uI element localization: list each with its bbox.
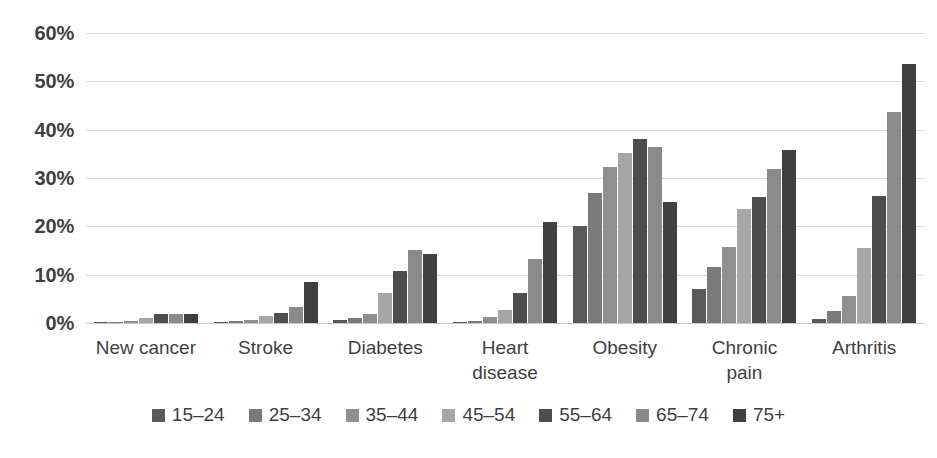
bar[interactable] [857, 248, 871, 323]
y-tick-label: 20% [35, 215, 74, 238]
plot-area [86, 33, 924, 323]
bar[interactable] [663, 202, 677, 323]
legend-label: 65–74 [656, 404, 709, 426]
legend-label: 75+ [753, 404, 785, 426]
bar[interactable] [872, 196, 886, 323]
bar[interactable] [214, 322, 228, 323]
legend-swatch-icon [539, 409, 552, 422]
bar[interactable] [902, 64, 916, 323]
bar[interactable] [184, 314, 198, 323]
x-axis-category-label: Arthritis [804, 329, 924, 391]
bar[interactable] [528, 259, 542, 323]
bar[interactable] [94, 322, 108, 323]
bar[interactable] [513, 293, 527, 323]
bar[interactable] [289, 307, 303, 323]
bar-group [325, 33, 445, 323]
bar[interactable] [752, 197, 766, 323]
bar[interactable] [304, 282, 318, 323]
y-axis: 0%10%20%30%40%50%60% [0, 33, 74, 323]
grouped-bar-chart: 0%10%20%30%40%50%60% New cancerStrokeDia… [0, 0, 937, 458]
bar[interactable] [244, 320, 258, 323]
bar[interactable] [333, 320, 347, 323]
bar[interactable] [109, 322, 123, 323]
bar[interactable] [154, 314, 168, 323]
bar[interactable] [812, 319, 826, 323]
x-axis: New cancerStrokeDiabetesHeart diseaseObe… [86, 329, 924, 391]
bar[interactable] [498, 310, 512, 323]
bar[interactable] [363, 314, 377, 323]
legend-label: 15–24 [172, 404, 225, 426]
bar[interactable] [378, 293, 392, 323]
y-tick-label: 10% [35, 263, 74, 286]
bar-group [804, 33, 924, 323]
legend-label: 35–44 [366, 404, 419, 426]
bar[interactable] [348, 318, 362, 323]
legend-swatch-icon [636, 409, 649, 422]
x-axis-category-label: New cancer [86, 329, 206, 391]
bar[interactable] [274, 313, 288, 323]
bar[interactable] [543, 222, 557, 323]
bar[interactable] [408, 250, 422, 323]
bar[interactable] [573, 226, 587, 323]
bar[interactable] [648, 147, 662, 323]
bar[interactable] [767, 169, 781, 323]
bar[interactable] [692, 289, 706, 323]
legend-item[interactable]: 65–74 [636, 404, 709, 426]
bar[interactable] [483, 317, 497, 323]
legend-item[interactable]: 25–34 [249, 404, 322, 426]
chart-legend: 15–2425–3435–4445–5455–6465–7475+ [0, 404, 937, 426]
bar-group [565, 33, 685, 323]
bar[interactable] [588, 193, 602, 323]
bar[interactable] [782, 150, 796, 323]
x-axis-category-label: Stroke [206, 329, 326, 391]
bar[interactable] [603, 167, 617, 323]
legend-swatch-icon [733, 409, 746, 422]
bar-group [86, 33, 206, 323]
legend-item[interactable]: 45–54 [442, 404, 515, 426]
bar[interactable] [393, 271, 407, 323]
bar[interactable] [737, 209, 751, 323]
axis-baseline [86, 323, 924, 324]
x-axis-category-label: Chronic pain [685, 329, 805, 391]
bar[interactable] [722, 247, 736, 323]
y-tick-label: 30% [35, 167, 74, 190]
bar[interactable] [633, 139, 647, 323]
bar[interactable] [124, 321, 138, 323]
legend-label: 45–54 [462, 404, 515, 426]
bar[interactable] [453, 322, 467, 323]
bar-group [206, 33, 326, 323]
bar[interactable] [707, 267, 721, 323]
y-tick-label: 50% [35, 70, 74, 93]
x-axis-category-label: Heart disease [445, 329, 565, 391]
legend-item[interactable]: 75+ [733, 404, 785, 426]
bar[interactable] [229, 321, 243, 323]
legend-swatch-icon [249, 409, 262, 422]
x-axis-category-label: Obesity [565, 329, 685, 391]
bar[interactable] [842, 296, 856, 323]
legend-item[interactable]: 55–64 [539, 404, 612, 426]
legend-swatch-icon [346, 409, 359, 422]
y-tick-label: 0% [45, 312, 74, 335]
legend-swatch-icon [442, 409, 455, 422]
bar[interactable] [887, 112, 901, 323]
legend-label: 55–64 [559, 404, 612, 426]
bar-group [445, 33, 565, 323]
legend-swatch-icon [152, 409, 165, 422]
bar[interactable] [423, 254, 437, 323]
bar[interactable] [139, 318, 153, 323]
legend-item[interactable]: 15–24 [152, 404, 225, 426]
x-axis-category-label: Diabetes [325, 329, 445, 391]
y-tick-label: 60% [35, 22, 74, 45]
legend-item[interactable]: 35–44 [346, 404, 419, 426]
legend-label: 25–34 [269, 404, 322, 426]
y-tick-label: 40% [35, 118, 74, 141]
bar-group [685, 33, 805, 323]
bar[interactable] [468, 321, 482, 323]
bar[interactable] [618, 153, 632, 323]
bar[interactable] [169, 314, 183, 323]
bar[interactable] [827, 311, 841, 323]
bar[interactable] [259, 316, 273, 323]
bar-groups [86, 33, 924, 323]
